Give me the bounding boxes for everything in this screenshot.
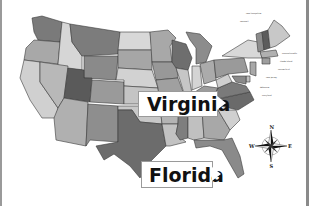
state-massachusetts: [260, 50, 278, 58]
svg-text:rhode island: rhode island: [280, 60, 293, 63]
svg-text:new hampshire: new hampshire: [246, 12, 262, 15]
svg-text:W: W: [248, 143, 255, 149]
svg-text:S: S: [269, 163, 273, 169]
state-wisconsin: [172, 40, 192, 70]
state-maine: [268, 20, 290, 48]
svg-text:connecticut: connecticut: [278, 68, 290, 71]
compass-rose-icon: N S E W: [248, 124, 292, 169]
svg-text:vermont: vermont: [240, 20, 249, 23]
state-new-york: [222, 40, 262, 58]
florida-label-text: Florida: [149, 166, 212, 185]
state-colorado: [90, 80, 124, 104]
state-ohio: [200, 60, 216, 84]
state-new-jersey: [250, 62, 256, 76]
svg-text:maryland: maryland: [262, 94, 272, 97]
state-new-mexico: [86, 104, 118, 146]
florida-label: Florida: [141, 161, 213, 188]
state-delaware: [246, 76, 250, 82]
svg-text:N: N: [269, 124, 274, 130]
florida-pointer: [212, 167, 221, 181]
state-wyoming: [84, 56, 118, 80]
virginia-label-text: Virginia: [147, 95, 217, 114]
state-washington: [32, 16, 62, 42]
svg-text:E: E: [288, 143, 292, 149]
state-connecticut: [262, 58, 270, 64]
state-north-dakota: [118, 32, 152, 50]
svg-text:delaware: delaware: [260, 86, 270, 89]
state-indiana: [192, 66, 202, 90]
virginia-pointer: [217, 96, 226, 110]
svg-text:massachusetts: massachusetts: [282, 52, 297, 55]
state-pennsylvania: [214, 58, 248, 78]
virginia-label: Virginia: [138, 91, 218, 117]
svg-text:new jersey: new jersey: [266, 76, 278, 79]
state-south-dakota: [118, 50, 152, 70]
